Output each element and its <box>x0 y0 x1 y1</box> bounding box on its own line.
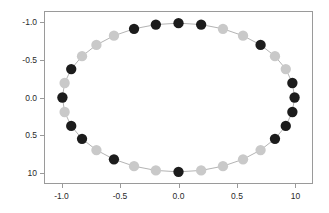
x-tick-label: -0.5 <box>113 192 128 201</box>
x-tick-label: 10 <box>291 192 300 201</box>
data-point <box>129 24 139 34</box>
data-point <box>287 107 297 117</box>
data-point <box>173 167 183 177</box>
data-point <box>66 64 76 74</box>
data-point <box>196 165 206 175</box>
data-point <box>109 154 119 164</box>
data-point <box>196 19 206 29</box>
data-point <box>77 134 87 144</box>
data-point <box>289 92 299 102</box>
data-point <box>218 161 228 171</box>
x-tick-label: -1.0 <box>54 192 69 201</box>
plot-area <box>44 11 313 184</box>
data-point <box>281 64 291 74</box>
x-tick-mark <box>62 184 63 188</box>
data-point <box>59 78 69 88</box>
data-point <box>91 40 101 50</box>
data-point <box>129 161 139 171</box>
data-point <box>57 92 67 102</box>
figure: 100.50.0-0.5-1.0 -1.0-0.50.00.510 <box>0 0 329 213</box>
data-point <box>270 134 280 144</box>
data-point <box>255 145 265 155</box>
data-point <box>287 78 297 88</box>
data-point <box>270 51 280 61</box>
data-point <box>281 121 291 131</box>
data-point <box>218 24 228 34</box>
data-point <box>66 121 76 131</box>
x-tick-label: 0.0 <box>173 192 185 201</box>
x-tick-mark <box>179 184 180 188</box>
data-point <box>238 31 248 41</box>
data-point <box>238 154 248 164</box>
y-tick-label: 0.0 <box>25 93 37 102</box>
data-point <box>151 19 161 29</box>
data-point <box>151 165 161 175</box>
x-tick-mark <box>295 184 296 188</box>
x-tick-mark <box>120 184 121 188</box>
scatter-plot-canvas <box>45 12 312 183</box>
y-tick-label: -0.5 <box>22 56 37 65</box>
data-point <box>109 31 119 41</box>
data-point <box>173 18 183 28</box>
y-tick-label: 0.5 <box>25 131 37 140</box>
data-point <box>91 145 101 155</box>
data-point <box>77 51 87 61</box>
data-point <box>59 107 69 117</box>
y-tick-label: 10 <box>28 168 37 177</box>
data-point <box>255 40 265 50</box>
x-tick-mark <box>237 184 238 188</box>
x-tick-label: 0.5 <box>231 192 243 201</box>
y-tick-label: -1.0 <box>22 18 37 27</box>
